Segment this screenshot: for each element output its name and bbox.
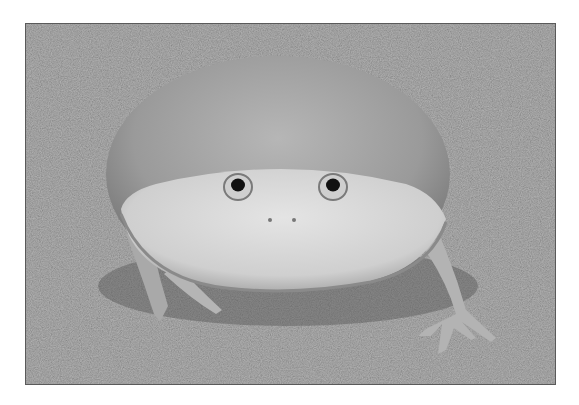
left-eye (231, 179, 245, 192)
right-eye (326, 179, 340, 192)
frog-photo: Grayscale photograph of a round, flat-fa… (26, 24, 555, 384)
frog-illustration (26, 24, 555, 384)
